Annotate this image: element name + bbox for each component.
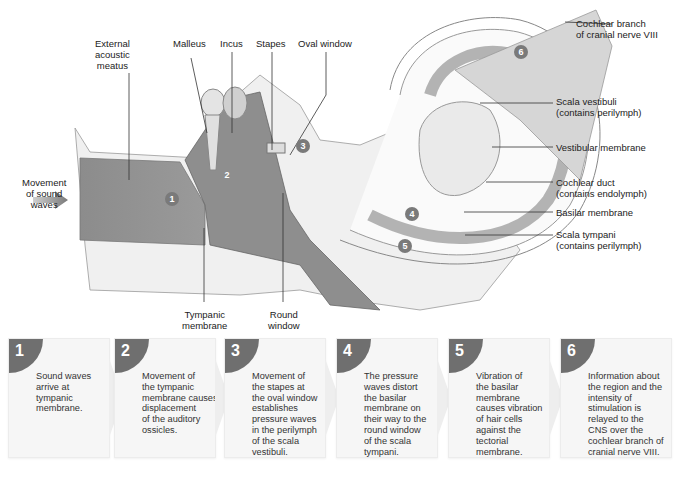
diagram-badge-3: 3 [296, 139, 310, 153]
label-malleus: Malleus [173, 38, 206, 49]
step-description: Movement of the stapes at the oval windo… [252, 371, 330, 457]
step-number-badge: 1 [9, 339, 43, 373]
step-description: The pressure waves distort the basilar m… [364, 371, 442, 457]
step-card-1: 1 Sound waves arrive at tympanic membran… [8, 338, 110, 458]
label-tympanic-membrane: Tympanic membrane [182, 309, 227, 331]
step-number-badge: 6 [561, 339, 595, 373]
ear-cochlea-diagram: External acoustic meatus Malleus Incus S… [0, 0, 676, 330]
step-description: Information about the region and the int… [588, 371, 674, 457]
diagram-badge-2: 2 [220, 168, 234, 182]
step-description: Vibration of the basilar membrane causes… [476, 371, 554, 457]
step-card-6: 6 Information about the region and the i… [560, 338, 672, 458]
label-cochlear-duct: Cochlear duct (contains endolymph) [556, 177, 647, 199]
label-scala-vestibuli: Scala vestibuli (contains perilymph) [556, 96, 642, 118]
step-card-3: 3 Movement of the stapes at the oval win… [224, 338, 326, 458]
label-basilar-membrane: Basilar membrane [556, 207, 633, 218]
diagram-badge-4: 4 [405, 207, 419, 221]
process-steps: 1 Sound waves arrive at tympanic membran… [0, 338, 676, 468]
label-external-acoustic-meatus: External acoustic meatus [95, 38, 130, 71]
label-scala-tympani: Scala tympani (contains perilymph) [556, 229, 642, 251]
step-description: Movement of the tympanic membrane causes… [142, 371, 220, 436]
step-number-badge: 2 [115, 339, 149, 373]
step-number-badge: 5 [449, 339, 483, 373]
diagram-badge-6: 6 [514, 45, 528, 59]
step-number-badge: 4 [337, 339, 371, 373]
step-card-2: 2 Movement of the tympanic membrane caus… [114, 338, 216, 458]
label-cochlear-branch-nerve: Cochlear branch of cranial nerve VIII [576, 18, 658, 40]
label-movement-of-sound-waves: Movement of sound waves [22, 177, 66, 210]
label-vestibular-membrane: Vestibular membrane [556, 142, 646, 153]
step-card-5: 5 Vibration of the basilar membrane caus… [448, 338, 550, 458]
step-card-4: 4 The pressure waves distort the basilar… [336, 338, 438, 458]
step-description: Sound waves arrive at tympanic membrane. [36, 371, 114, 414]
label-oval-window: Oval window [298, 38, 352, 49]
diagram-badge-1: 1 [165, 192, 179, 206]
label-stapes: Stapes [256, 38, 286, 49]
label-incus: Incus [220, 38, 243, 49]
label-round-window: Round window [268, 309, 300, 331]
diagram-badge-5: 5 [398, 239, 412, 253]
step-number-badge: 3 [225, 339, 259, 373]
